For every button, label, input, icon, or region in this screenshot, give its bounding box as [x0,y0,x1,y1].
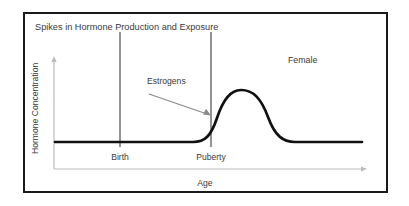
marker-label-birth: Birth [111,152,129,162]
figure-frame: Spikes in Hormone Production and Exposur… [23,12,388,193]
estrogens-curve [55,90,362,142]
chart-screenshot: Spikes in Hormone Production and Exposur… [0,0,409,206]
x-axis-arrowhead-icon [361,166,367,171]
x-axis [54,166,367,171]
annotation-label-estrogens: Estrogens [147,76,186,86]
hormone-concentration-chart: Spikes in Hormone Production and Exposur… [25,14,386,191]
chart-title: Spikes in Hormone Production and Exposur… [35,22,218,32]
x-axis-title: Age [197,178,213,188]
y-axis-arrowhead-icon [51,56,56,62]
y-axis-title: Hormone Concentration [30,63,40,154]
marker-label-puberty: Puberty [196,152,226,162]
y-axis [51,56,56,169]
group-label-female: Female [288,55,317,65]
annotation-arrow-line [149,94,207,114]
annotation-arrowhead-icon [203,109,211,116]
annotation-arrow-estrogens [149,94,211,116]
